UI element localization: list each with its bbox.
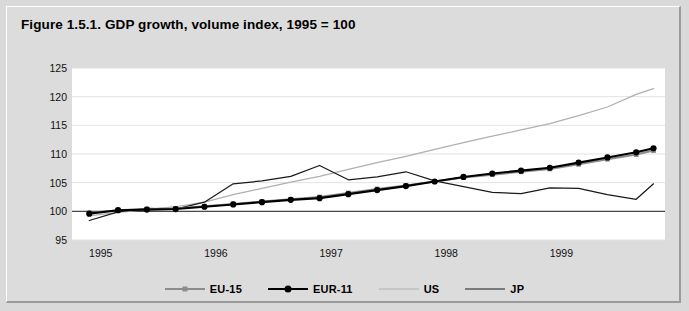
y-tick-label: 100 [33,205,67,217]
y-tick-label: 125 [33,62,67,74]
legend-swatch-jp-icon [465,284,505,294]
legend-swatch-eur-11-icon [268,284,308,294]
y-tick-label: 110 [33,148,67,160]
y-axis: 95100105110115120125 [27,7,67,304]
data-point [86,211,92,217]
data-point [288,197,294,203]
data-point [259,199,265,205]
y-tick-label: 95 [33,234,67,246]
figure-panel: Figure 1.5.1. GDP growth, volume index, … [6,6,681,303]
plot-container: 95100105110115120125 1995199619971998199… [7,7,682,304]
legend-item-us[interactable]: US [379,283,440,295]
data-point [604,154,610,160]
chart-legend: EU-15EUR-11USJP [7,283,682,295]
legend-line [465,289,505,290]
x-tick-label: 1998 [435,247,458,259]
legend-label: EUR-11 [313,283,353,295]
data-point [115,207,121,213]
legend-item-jp[interactable]: JP [465,283,524,295]
legend-swatch-eu-15-icon [165,284,205,294]
legend-label: EU-15 [210,283,242,295]
chart-canvas [7,7,682,304]
data-point [201,204,207,210]
legend-item-eu-15[interactable]: EU-15 [165,283,242,295]
data-point [460,174,466,180]
data-point [576,160,582,166]
data-point [374,187,380,193]
legend-line [379,289,419,290]
legend-marker-circle-icon [284,286,291,293]
y-tick-label: 105 [33,177,67,189]
x-tick-label: 1999 [550,247,573,259]
x-tick-label: 1997 [319,247,342,259]
y-tick-label: 120 [33,91,67,103]
data-point [633,149,639,155]
x-tick-label: 1996 [204,247,227,259]
data-point [403,183,409,189]
legend-label: US [424,283,440,295]
legend-swatch-us-icon [379,284,419,294]
legend-marker-square-icon [182,287,187,292]
data-point [144,207,150,213]
data-point [432,178,438,184]
data-point [547,165,553,171]
data-point [173,206,179,212]
legend-label: JP [510,283,524,295]
data-point [489,170,495,176]
y-tick-label: 115 [33,119,67,131]
data-point [316,195,322,201]
data-point [230,201,236,207]
data-point [518,168,524,174]
legend-item-eur-11[interactable]: EUR-11 [268,283,353,295]
x-tick-label: 1995 [89,247,112,259]
data-point [650,145,656,151]
data-point [345,191,351,197]
